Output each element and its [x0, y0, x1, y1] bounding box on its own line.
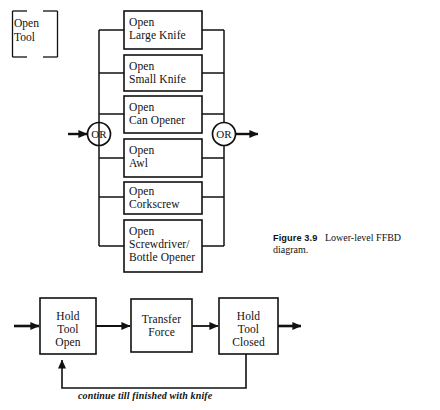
figure-page: Open Tool OR OR Open Large Knife Open Sm…: [0, 0, 440, 410]
function-label-transfer-force: Transfer Force: [131, 313, 192, 339]
function-label-open-corkscrew: Open Corkscrew: [129, 185, 180, 211]
figure-caption: Figure 3.9 Lower-level FFBD diagram.: [273, 232, 433, 257]
function-label-open-large-knife: Open Large Knife: [129, 16, 186, 42]
function-label-open-awl: Open Awl: [129, 144, 154, 170]
or-gate-left-label: OR: [86, 129, 112, 140]
function-label-hold-tool-open: Hold Tool Open: [40, 310, 96, 349]
feedback-loop-label: continue till finished with knife: [78, 390, 212, 401]
reference-block-label: Open Tool: [14, 16, 39, 44]
feedback-loop: [62, 354, 246, 388]
function-label-open-can-opener: Open Can Opener: [129, 101, 185, 127]
function-label-open-small-knife: Open Small Knife: [129, 60, 186, 86]
figure-caption-label: Figure 3.9: [273, 233, 317, 243]
or-gate-right-label: OR: [211, 129, 237, 140]
function-label-hold-tool-closed: Hold Tool Closed: [219, 310, 278, 349]
function-label-open-screwdriver-bottle-opener: Open Screwdriver/ Bottle Opener: [129, 225, 195, 264]
